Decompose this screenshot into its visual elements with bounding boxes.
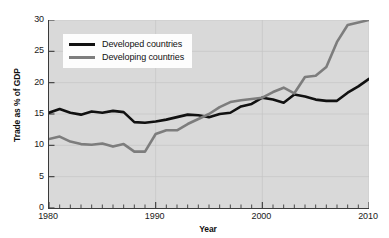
x-tick-label: 1990 (130, 211, 180, 221)
y-tick-label: 15 (0, 109, 44, 118)
y-axis: 302520151050 (0, 0, 44, 238)
x-axis-title: Year (48, 224, 368, 234)
x-tick-label: 2000 (236, 211, 286, 221)
y-tick-label: 5 (0, 172, 44, 181)
legend-item-developing: Developing countries (69, 51, 184, 64)
x-tick-label: 1980 (23, 211, 73, 221)
y-tick-label: 30 (0, 15, 44, 24)
x-tick-label: 2010 (343, 211, 389, 221)
y-tick-label: 25 (0, 46, 44, 55)
legend-label-developed: Developed countries (102, 39, 182, 50)
legend-label-developing: Developing countries (102, 52, 184, 63)
y-tick-label: 10 (0, 140, 44, 149)
legend-line-swatch-icon (69, 43, 95, 46)
series-line (49, 79, 369, 123)
y-tick-label: 20 (0, 78, 44, 87)
legend: Developed countries Developing countries (63, 34, 192, 68)
chart-figure: 302520151050 Trade as % of GDP Developed… (0, 0, 389, 238)
legend-item-developed: Developed countries (69, 38, 184, 51)
plot-area: Developed countries Developing countries (48, 20, 369, 209)
legend-line-swatch-icon (69, 56, 95, 59)
x-axis: 1980199020002010 (0, 211, 389, 225)
y-axis-title: Trade as % of GDP (12, 45, 22, 165)
